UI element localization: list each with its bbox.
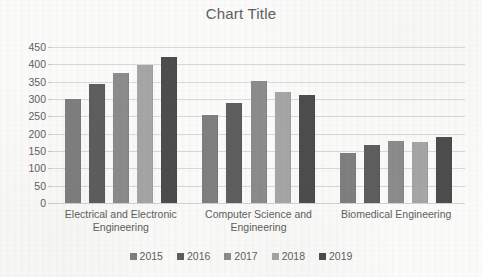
category-label: Computer Science and Engineering [190,208,328,234]
bar-slot [336,47,360,203]
legend-label: 2016 [187,250,210,262]
bar-slot [198,47,222,203]
bar-group [190,47,328,203]
bar-2017[interactable] [113,73,129,203]
bar-slot [85,47,109,203]
bar-slot [246,47,270,203]
legend-label: 2019 [329,250,352,262]
bar-2019[interactable] [299,95,315,203]
legend-swatch-icon [224,253,231,260]
chart-title: Chart Title [0,5,482,22]
legend-swatch-icon [272,253,279,260]
y-axis-tick-label: 350 [28,76,46,88]
legend-label: 2015 [140,250,163,262]
bar-2016[interactable] [89,84,105,203]
legend-swatch-icon [177,253,184,260]
category-axis-labels: Electrical and Electronic EngineeringCom… [52,208,465,234]
bar-2017[interactable] [388,141,404,203]
bar-slot [133,47,157,203]
bar-2015[interactable] [340,153,356,203]
y-axis-tick-label: 300 [28,93,46,105]
bar-slot [384,47,408,203]
bar-group [327,47,465,203]
legend-swatch-icon [319,253,326,260]
bar-slot [157,47,181,203]
bar-group [52,47,190,203]
y-axis-tick-mark [48,203,52,204]
bar-2015[interactable] [65,99,81,203]
y-axis-tick-label: 250 [28,110,46,122]
bar-slot [408,47,432,203]
bar-slot [61,47,85,203]
bar-2018[interactable] [412,142,428,203]
bar-slot [432,47,456,203]
gridline [52,203,465,204]
bar-slot [271,47,295,203]
bar-groups [52,47,465,203]
legend-item-2017[interactable]: 2017 [224,250,257,262]
y-axis-tick-label: 150 [28,145,46,157]
legend-item-2019[interactable]: 2019 [319,250,352,262]
y-axis-tick-label: 50 [34,180,46,192]
legend-item-2016[interactable]: 2016 [177,250,210,262]
legend-swatch-icon [130,253,137,260]
legend-item-2018[interactable]: 2018 [272,250,305,262]
bar-2018[interactable] [137,65,153,203]
bar-2019[interactable] [161,57,177,203]
category-label: Electrical and Electronic Engineering [52,208,190,234]
category-label: Biomedical Engineering [327,208,465,234]
legend-label: 2017 [234,250,257,262]
chart-legend: 20152016201720182019 [0,250,482,262]
bar-2015[interactable] [202,115,218,203]
bar-2018[interactable] [275,92,291,203]
bar-2019[interactable] [436,137,452,203]
y-axis-tick-label: 200 [28,128,46,140]
bar-2016[interactable] [226,103,242,203]
y-axis-tick-label: 400 [28,58,46,70]
bar-slot [222,47,246,203]
bar-2017[interactable] [251,81,267,203]
legend-label: 2018 [282,250,305,262]
y-axis-tick-label: 100 [28,162,46,174]
plot-area: 050100150200250300350400450 [52,47,465,203]
legend-item-2015[interactable]: 2015 [130,250,163,262]
bar-slot [295,47,319,203]
bar-slot [109,47,133,203]
y-axis-tick-label: 0 [40,197,46,209]
y-axis-tick-label: 450 [28,41,46,53]
bar-2016[interactable] [364,145,380,203]
bar-chart: Chart Title 050100150200250300350400450 … [0,0,482,277]
bar-slot [360,47,384,203]
